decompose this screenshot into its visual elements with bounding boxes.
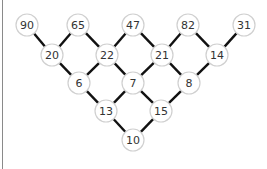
node-value: 8 <box>186 77 193 90</box>
node-14: 14 <box>206 44 228 66</box>
node-value: 15 <box>154 105 168 118</box>
edge-6-13 <box>87 91 99 103</box>
edge-21-82 <box>169 33 181 46</box>
node-10: 10 <box>122 129 144 151</box>
node-value: 7 <box>130 77 137 90</box>
number-graph: 906547823120222114678131510 <box>0 0 267 169</box>
edge-7-15 <box>141 91 153 103</box>
node-15: 15 <box>150 100 172 122</box>
node-value: 90 <box>20 19 34 32</box>
edge-90-20 <box>34 33 45 46</box>
edge-14-31 <box>224 33 236 47</box>
edge-7-21 <box>141 63 154 76</box>
edge-20-65 <box>59 33 71 46</box>
edge-22-7 <box>114 63 125 75</box>
node-31: 31 <box>233 14 255 36</box>
edge-13-10 <box>113 119 125 132</box>
node-22: 22 <box>96 44 118 66</box>
edge-13-7 <box>114 91 126 103</box>
node-value: 20 <box>45 49 59 62</box>
node-7: 7 <box>122 72 144 94</box>
node-value: 6 <box>76 77 83 90</box>
node-21: 21 <box>151 44 173 66</box>
node-6: 6 <box>68 72 90 94</box>
node-value: 47 <box>126 19 140 32</box>
node-value: 31 <box>237 19 251 32</box>
node-20: 20 <box>41 44 63 66</box>
edge-22-47 <box>114 33 126 46</box>
node-value: 13 <box>99 105 113 118</box>
edge-6-22 <box>87 63 99 75</box>
node-8: 8 <box>178 72 200 94</box>
edge-21-8 <box>170 63 182 75</box>
edge-8-14 <box>197 63 209 75</box>
diagram-canvas: 906547823120222114678131510 <box>0 0 267 169</box>
edge-65-22 <box>86 33 100 47</box>
node-90: 90 <box>16 14 38 36</box>
node-value: 10 <box>126 134 140 147</box>
node-value: 14 <box>210 49 224 62</box>
edge-15-8 <box>169 91 181 103</box>
edge-20-6 <box>60 63 72 75</box>
node-value: 82 <box>181 19 195 32</box>
node-value: 21 <box>155 49 169 62</box>
edge-47-21 <box>141 33 155 47</box>
node-82: 82 <box>177 14 199 36</box>
node-value: 65 <box>71 19 85 32</box>
node-47: 47 <box>122 14 144 36</box>
edge-10-15 <box>141 119 154 132</box>
node-65: 65 <box>67 14 89 36</box>
node-layer: 906547823120222114678131510 <box>16 14 255 151</box>
node-value: 22 <box>100 49 114 62</box>
edge-82-14 <box>196 33 210 47</box>
node-13: 13 <box>95 100 117 122</box>
